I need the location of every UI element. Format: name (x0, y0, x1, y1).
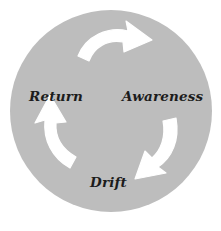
cycle-diagram: Return Awareness Drift (0, 0, 221, 231)
cycle-label-awareness: Awareness (122, 90, 203, 104)
cycle-diagram-canvas (0, 0, 221, 231)
cycle-label-drift: Drift (90, 176, 127, 190)
cycle-label-return: Return (29, 90, 83, 104)
